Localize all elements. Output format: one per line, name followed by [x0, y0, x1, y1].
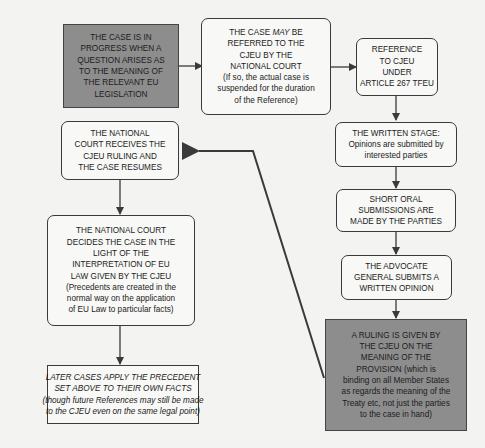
- node-text: THE NATIONAL COURT: [76, 225, 166, 236]
- node-text: THE CASE IS IN: [90, 32, 151, 43]
- node-oral-submissions: SHORT ORAL SUBMISSIONS ARE MADE BY THE P…: [336, 189, 456, 232]
- node-text: SUBMISSIONS ARE: [358, 205, 434, 216]
- node-text: SHORT ORAL: [370, 194, 423, 205]
- node-text: THE ADVOCATE: [365, 261, 428, 272]
- node-note: of EU Law to particular facts): [68, 304, 173, 315]
- node-text: TO THE MEANING OF: [79, 66, 163, 77]
- node-text: COURT RECEIVES THE: [75, 139, 166, 150]
- node-text: TO CJEU: [380, 56, 415, 67]
- node-advocate-general: THE ADVOCATE GENERAL SUBMITS A WRITTEN O…: [341, 255, 452, 300]
- node-text: ARTICLE 267 TFEU: [360, 78, 434, 89]
- node-later-cases: LATER CASES APPLY THE PRECEDENT SET ABOV…: [47, 365, 199, 424]
- node-text: THE WRITTEN STAGE:: [352, 128, 440, 139]
- node-text: binding on all Member States: [343, 375, 449, 386]
- node-ruling-given: A RULING IS GIVEN BY THE CJEU ON THE MEA…: [325, 319, 467, 431]
- node-text: LAW GIVEN BY THE CJEU: [71, 271, 171, 282]
- node-text: THE CJEU ON THE: [359, 341, 432, 352]
- node-text: DECIDES THE CASE IN THE: [67, 237, 175, 248]
- node-text: PROGRESS WHEN A: [81, 43, 162, 54]
- node-may-be-referred: THE CASE MAY BE REFERRED TO THE CJEU BY …: [201, 18, 331, 115]
- node-text: REFERRED TO THE: [228, 38, 305, 49]
- node-text-prefix: THE CASE: [229, 28, 272, 37]
- node-text: UNDER: [382, 67, 411, 78]
- node-text: SET ABOVE TO THEIR OWN FACTS: [54, 383, 191, 394]
- node-text: QUESTION ARISES AS: [77, 55, 164, 66]
- node-text: LATER CASES APPLY THE PRECEDENT: [46, 372, 201, 383]
- node-text: WRITTEN OPINION: [359, 283, 433, 294]
- node-case-in-progress: THE CASE IS IN PROGRESS WHEN A QUESTION …: [63, 24, 179, 108]
- node-note: (If so, the actual case is: [223, 72, 309, 83]
- node-text: MADE BY THE PARTIES: [350, 216, 442, 227]
- node-text-emphasis: MAY: [272, 28, 289, 37]
- node-text: INTERPRETATION OF EU: [72, 259, 170, 270]
- node-note: Opinions are submitted by: [348, 139, 443, 150]
- node-text: Treaty etc, not just the parties: [342, 398, 450, 409]
- node-court-receives-ruling: THE NATIONAL COURT RECEIVES THE CJEU RUL…: [61, 121, 179, 180]
- node-text: LIGHT OF THE: [93, 248, 149, 259]
- node-text: THE CASE RESUMES: [78, 162, 162, 173]
- node-text: THE NATIONAL: [91, 128, 150, 139]
- node-text: THE CASE MAY BE: [229, 27, 303, 38]
- node-note: to the CJEU even on the same legal point…: [46, 406, 200, 417]
- node-text: CJEU RULING AND: [83, 151, 157, 162]
- node-text-suffix: BE: [290, 28, 303, 37]
- node-written-stage: THE WRITTEN STAGE: Opinions are submitte…: [335, 122, 457, 167]
- node-note: interested parties: [365, 150, 428, 161]
- node-text: GENERAL SUBMITS A: [354, 272, 439, 283]
- node-text: A RULING IS GIVEN BY: [351, 330, 440, 341]
- node-note: normal way on the application: [67, 293, 175, 304]
- node-note: (though future References may still be m…: [42, 395, 203, 406]
- node-note: of the Reference): [234, 95, 297, 106]
- node-text: PROVISION (which is: [356, 364, 436, 375]
- node-court-decides: THE NATIONAL COURT DECIDES THE CASE IN T…: [47, 215, 195, 326]
- node-note: (Precedents are created in the: [66, 282, 176, 293]
- node-text: LEGISLATION: [94, 89, 147, 100]
- node-reference-article-267: REFERENCE TO CJEU UNDER ARTICLE 267 TFEU: [356, 38, 438, 96]
- arrow-ruling-to-court: [199, 151, 324, 378]
- node-text: THE RELEVANT EU: [84, 77, 159, 88]
- node-text: NATIONAL COURT: [230, 61, 301, 72]
- node-note: suspended for the duration: [217, 83, 314, 94]
- node-text: to the case in hand): [360, 409, 432, 420]
- node-text: REFERENCE: [372, 44, 423, 55]
- node-text: CJEU BY THE: [240, 50, 293, 61]
- node-text: MEANING OF THE: [361, 352, 431, 363]
- node-text: as regards the meaning of the: [342, 386, 451, 397]
